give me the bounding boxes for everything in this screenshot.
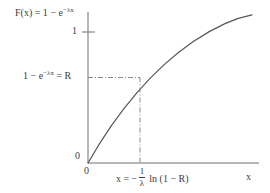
function-label-fx: F(x) = 1 xyxy=(15,7,50,18)
plot-canvas xyxy=(0,0,270,193)
exponential-cdf-figure: F(x) = 1 − e−λx 1 0 1 − e−λx = R 0 x x =… xyxy=(0,0,270,193)
function-label-e: e xyxy=(56,7,63,18)
function-label: F(x) = 1 − e−λx xyxy=(15,8,74,18)
function-label-exponent: −λx xyxy=(63,6,74,14)
solution-rhs: ln (1 − R) xyxy=(149,174,188,184)
r-level-equals: = R xyxy=(54,70,71,81)
solution-lhs: x = xyxy=(116,174,129,184)
r-level-exponent: −λx xyxy=(43,69,54,77)
y-tick-label-zero: 0 xyxy=(75,151,80,161)
x-axis-label: x xyxy=(246,172,251,182)
x-tick-label-zero: 0 xyxy=(84,166,89,176)
solution-fraction-denominator: λ xyxy=(139,177,145,188)
r-level-label: 1 − e−λx = R xyxy=(23,71,71,81)
solution-fraction-numerator: 1 xyxy=(139,167,146,177)
y-tick-label-one: 1 xyxy=(72,26,77,36)
solution-minus: − xyxy=(131,174,137,184)
solution-fraction: 1λ xyxy=(139,167,146,188)
r-level-lead: 1 xyxy=(23,70,31,81)
cdf-curve xyxy=(88,15,252,163)
solution-label: x =−1λln (1 − R) xyxy=(116,168,189,189)
